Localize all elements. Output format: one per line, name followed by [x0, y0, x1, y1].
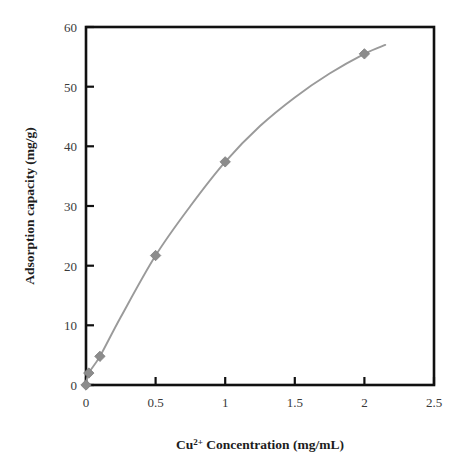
y-tick-label-0: 0 [71, 378, 78, 393]
data-point-marker [95, 351, 105, 361]
y-tick-labels: 0 10 20 30 40 50 60 [64, 20, 77, 393]
svg-text:Cu2+ Concentration (mg/mL): Cu2+ Concentration (mg/mL) [176, 437, 344, 453]
x-tick-label-2: 2 [361, 395, 368, 410]
x-tick-label-1: 1 [222, 395, 229, 410]
data-point-marker [359, 49, 369, 59]
x-tick-label-2-5: 2.5 [426, 395, 442, 410]
x-axis-title: Cu2+ Concentration (mg/mL) [176, 437, 344, 453]
y-tick-label-20: 20 [64, 259, 77, 274]
y-tick-label-50: 50 [64, 80, 77, 95]
y-tick-label-30: 30 [64, 199, 77, 214]
y-tick-label-10: 10 [64, 318, 77, 333]
x-tick-labels: 0 0.5 1 1.5 2 2.5 [83, 395, 442, 410]
data-point-marker [150, 250, 160, 260]
chart-figure: 0 10 20 30 40 50 60 0 0.5 1 1.5 2 2.5 Cu… [0, 0, 470, 473]
x-tick-label-0-5: 0.5 [147, 395, 163, 410]
x-axis-title-superscript: 2+ [193, 437, 203, 447]
y-axis-title-text: Adsorption capacity (mg/g) [22, 127, 37, 285]
x-tick-label-1-5: 1.5 [287, 395, 303, 410]
plot-frame [86, 27, 434, 385]
plot-border [86, 27, 434, 385]
data-series-markers [81, 49, 370, 391]
data-point-marker [81, 380, 91, 390]
x-axis-title-rest: Concentration (mg/mL) [203, 437, 344, 452]
y-tick-label-60: 60 [64, 20, 77, 35]
x-tick-label-0: 0 [83, 395, 90, 410]
y-axis-title: Adsorption capacity (mg/g) [22, 127, 37, 285]
chart-plot-svg: 0 10 20 30 40 50 60 0 0.5 1 1.5 2 2.5 Cu… [0, 0, 470, 473]
data-series-curve [86, 45, 385, 385]
y-tick-label-40: 40 [64, 139, 77, 154]
x-axis-title-base: Cu [176, 437, 194, 452]
